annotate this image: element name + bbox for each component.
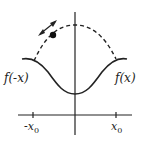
particle-dot bbox=[50, 32, 56, 38]
double-well-diagram: f(-x) f(x) -x0 x0 bbox=[0, 0, 144, 141]
label-f-x: f(x) bbox=[114, 71, 136, 85]
label-pos-x0: x0 bbox=[111, 120, 122, 135]
label-f-neg-x: f(-x) bbox=[3, 71, 29, 85]
label-neg-x0: -x0 bbox=[24, 120, 39, 135]
